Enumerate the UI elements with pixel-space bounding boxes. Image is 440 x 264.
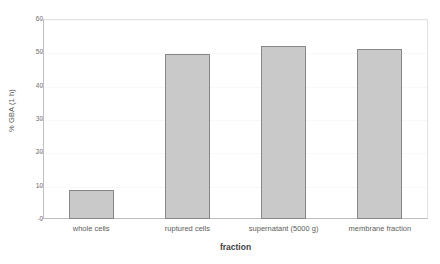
bar-slot	[165, 19, 210, 219]
y-axis-tick-mark	[38, 152, 42, 153]
x-axis-tick-labels: whole cellsruptured cellssupernatant (50…	[43, 224, 428, 238]
bar[interactable]	[69, 190, 114, 219]
bar[interactable]	[357, 49, 402, 219]
x-axis-title: fraction	[43, 242, 428, 252]
y-axis-tick-mark	[38, 186, 42, 187]
y-axis-tick-mark	[38, 19, 42, 20]
y-axis-tick-mark	[38, 86, 42, 87]
x-axis-tick-label: whole cells	[73, 224, 110, 233]
bar[interactable]	[165, 54, 210, 219]
y-axis-ticks: 0102030405060	[0, 0, 43, 264]
y-axis-tick-mark	[38, 219, 42, 220]
x-axis-tick-label: supernatant (5000 g)	[249, 224, 319, 233]
y-axis-tick-mark	[38, 119, 42, 120]
y-axis-tick-mark	[38, 52, 42, 53]
bar-slot	[261, 19, 306, 219]
bars-container	[43, 19, 428, 219]
x-axis-tick-label: membrane fraction	[349, 224, 412, 233]
bar[interactable]	[261, 46, 306, 219]
bar-chart: % GBA (1 h) 0102030405060 whole cellsrup…	[0, 0, 440, 264]
x-axis-tick-label: ruptured cells	[165, 224, 210, 233]
bar-slot	[69, 19, 114, 219]
bar-slot	[357, 19, 402, 219]
